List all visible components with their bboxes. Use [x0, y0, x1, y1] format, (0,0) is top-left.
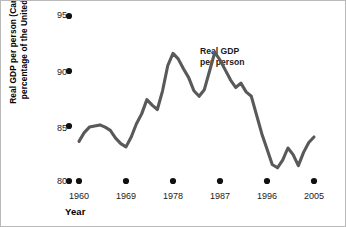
y-tick-dots	[66, 13, 72, 184]
data-series-line	[79, 52, 314, 168]
plot-area	[1, 1, 346, 227]
x-tick-dots	[76, 178, 317, 184]
chart-figure: Real GDP per person (Canada as a percent…	[0, 0, 346, 227]
